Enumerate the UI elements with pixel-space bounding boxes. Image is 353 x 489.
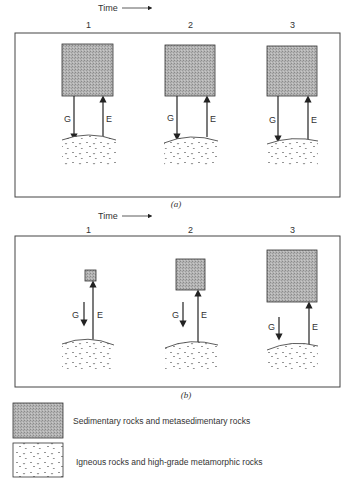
sediment-block [267,46,317,96]
stage-label: 1 [86,225,91,235]
g-label: G [64,114,71,124]
legend: Sedimentary rocks and metasedimentary ro… [13,403,263,477]
time-label: Time [98,211,118,221]
igneous-body [62,339,114,370]
stage-a2: G E [164,45,218,165]
stage-b3: G E [267,250,318,371]
stage-label: 2 [188,20,193,30]
sediment-block [267,250,317,302]
igneous-body [267,139,318,166]
g-label: G [268,322,275,332]
g-label: G [72,310,79,320]
e-label: E [312,322,318,332]
stage-label: 3 [290,225,295,235]
sediment-block [85,270,96,281]
e-label: E [97,310,103,320]
legend-label-sedimentary: Sedimentary rocks and metasedimentary ro… [73,416,250,426]
stage-label: 2 [188,225,193,235]
igneous-body [164,137,218,165]
legend-swatch-igneous [13,443,63,477]
stage-b2: G E [165,259,218,370]
igneous-body [165,342,218,370]
panel-a: Time 1 2 3 G E G E [15,3,340,209]
stage-b1: G E [62,270,114,370]
time-label: Time [98,3,118,13]
stage-a1: G E [62,44,116,165]
g-label: G [269,115,276,125]
stage-a3: G E [267,46,318,166]
e-label: E [106,114,112,124]
panel-caption: (a) [171,199,182,209]
diagram-canvas: Time 1 2 3 G E G E [0,0,353,489]
stage-label: 3 [290,20,295,30]
sediment-block [165,45,215,96]
g-label: G [167,113,174,123]
panel-b: Time 1 2 3 G E G E [15,211,340,400]
sediment-block [176,259,205,290]
legend-label-igneous: Igneous rocks and high-grade metamorphic… [76,457,263,467]
sediment-block [62,44,113,96]
legend-swatch-sedimentary [13,403,63,438]
e-label: E [311,115,317,125]
panel-caption: (b) [181,390,192,400]
stage-label: 1 [86,20,91,30]
igneous-body [62,135,116,165]
e-label: E [210,114,216,124]
e-label: E [201,310,207,320]
g-label: G [172,310,179,320]
